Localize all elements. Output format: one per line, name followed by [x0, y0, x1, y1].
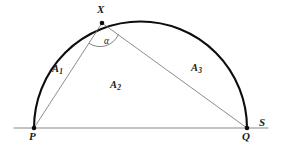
region-label-A3: A3: [191, 63, 202, 74]
region-label-A2-sub: 2: [117, 83, 121, 92]
diagram-canvas: [0, 0, 282, 151]
point-label-S: S: [259, 117, 265, 128]
point-label-X: X: [97, 4, 104, 15]
region-label-A1-sub: 1: [59, 67, 63, 76]
region-label-A1: A1: [52, 64, 63, 75]
region-label-A3-sub: 3: [198, 66, 202, 75]
region-label-A2-base: A: [110, 79, 117, 90]
point-label-Q: Q: [242, 131, 250, 142]
chord-PX: [34, 23, 102, 128]
region-label-A1-base: A: [52, 63, 59, 74]
region-label-A3-base: A: [191, 62, 198, 73]
chord-XQ: [102, 23, 247, 128]
angle-label-alpha: α: [104, 37, 109, 47]
semicircle-arc-PQ: [34, 22, 247, 129]
geometry-figure: X P Q S α A1 A2 A3: [0, 0, 282, 151]
point-dot-X: [100, 21, 105, 26]
region-label-A2: A2: [110, 80, 121, 91]
point-label-P: P: [29, 131, 36, 142]
